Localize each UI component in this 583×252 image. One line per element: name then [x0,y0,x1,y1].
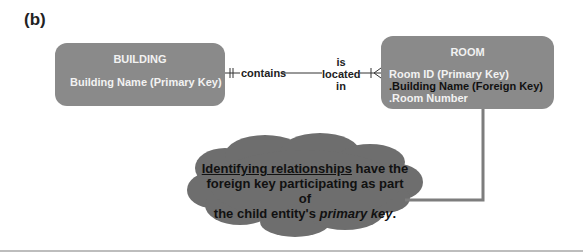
callout-text: Identifying relationships have the forei… [200,161,410,221]
building-attribute: Building Name (Primary Key) [70,76,222,88]
callout-line3-start: the child entity's [214,206,320,221]
relationship-label-is-located-in: is located in [322,56,360,92]
callout-line3-end: . [393,206,397,221]
room-title: ROOM [381,46,554,58]
room-attr-foreign-key: .Building Name (Foreign Key) [389,80,543,92]
room-attr-primary-key: Room ID (Primary Key) [389,68,543,80]
rel-line-is: is [322,56,360,68]
room-entity[interactable]: ROOM Room ID (Primary Key) .Building Nam… [381,36,554,109]
room-attr-room-number: .Room Number [389,92,543,104]
callout-underlined-term: Identifying relationships [202,161,352,176]
callout-primary-key-italic: primary key [320,206,393,221]
relationship-label-contains: contains [241,67,286,79]
callout-line2: foreign key participating as part of [200,176,410,206]
room-attributes: Room ID (Primary Key) .Building Name (Fo… [389,68,543,104]
rel-line-in: in [322,80,360,92]
building-title: BUILDING [55,53,225,65]
building-entity[interactable]: BUILDING Building Name (Primary Key) [55,43,225,106]
rel-line-located: located [322,68,360,80]
callout-line1: have the [352,161,408,176]
